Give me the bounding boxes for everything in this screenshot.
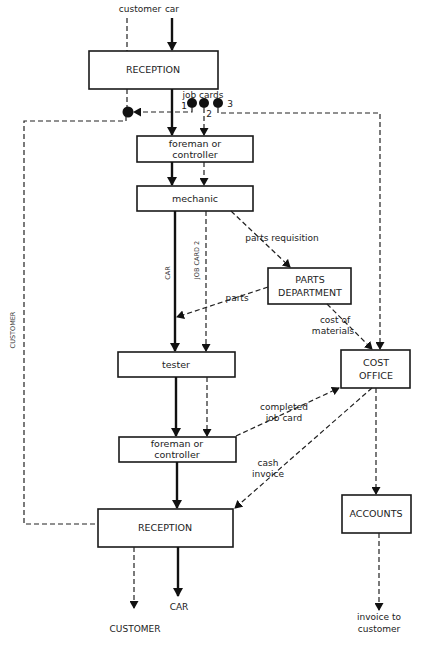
node-reception-top: RECEPTION <box>89 51 218 89</box>
node-foreman-1: foreman or controller <box>137 136 253 162</box>
car-vertical-label: CAR <box>164 266 172 280</box>
output-invoice-label-line2: customer <box>358 624 401 634</box>
output-customer-label: CUSTOMER <box>110 624 161 634</box>
output-invoice-label-line1: invoice to <box>357 612 401 622</box>
completed-job-card-label-line1: completed <box>260 402 308 412</box>
accounts-label: ACCOUNTS <box>350 508 403 519</box>
foreman-1-label-line1: foreman or <box>169 138 222 149</box>
node-cost-office: COST OFFICE <box>341 350 410 388</box>
tester-label: tester <box>162 359 190 370</box>
parts-department-label-line2: DEPARTMENT <box>278 287 342 298</box>
foreman-2-label-line2: controller <box>154 449 199 460</box>
parts-arrow <box>177 287 268 317</box>
job-card-3-dot <box>213 98 223 108</box>
customer-join-dot <box>123 107 134 118</box>
node-accounts: ACCOUNTS <box>342 495 411 533</box>
job-cards-group: job cards 1 3 2 <box>181 90 233 119</box>
reception-bottom-label: RECEPTION <box>138 522 192 533</box>
node-parts-department: PARTS DEPARTMENT <box>268 268 351 304</box>
job-card-2-dot <box>199 98 209 108</box>
job-card-1-label: 1 <box>181 101 187 111</box>
job-card-2-vertical-label: JOB CARD 2 <box>193 241 201 280</box>
job-card-3-label: 3 <box>227 99 233 109</box>
output-car-label: CAR <box>170 602 189 612</box>
input-customer-label: customer <box>119 4 162 14</box>
node-reception-bottom: RECEPTION <box>98 509 233 547</box>
node-tester: tester <box>118 352 235 377</box>
cash-invoice-label-line1: cash <box>258 458 279 468</box>
mechanic-label: mechanic <box>172 193 218 204</box>
cost-of-materials-label-line1: cost of <box>320 315 351 325</box>
input-car-label: car <box>165 4 179 14</box>
cost-office-box <box>341 350 410 388</box>
parts-label: parts <box>225 293 248 303</box>
parts-department-label-line1: PARTS <box>295 274 324 285</box>
node-foreman-2: foreman or controller <box>119 437 236 462</box>
completed-job-card-label-line2: job card <box>265 413 302 423</box>
customer-vertical-label: CUSTOMER <box>9 311 17 348</box>
completed-job-card-arrow <box>236 388 339 436</box>
input-car: car <box>165 4 179 50</box>
job-card-1-dot <box>187 98 197 108</box>
node-mechanic: mechanic <box>137 186 253 211</box>
parts-requisition-label: parts requisition <box>245 233 318 243</box>
cost-office-label-line1: COST <box>363 357 389 368</box>
cost-office-label-line2: OFFICE <box>359 370 393 381</box>
foreman-2-label-line1: foreman or <box>151 438 204 449</box>
job-card-2-label: 2 <box>206 109 212 119</box>
cost-of-materials-label-line2: materials <box>312 326 355 336</box>
customer-loop-line <box>24 116 126 524</box>
input-customer: customer <box>119 4 162 51</box>
foreman-1-label-line2: controller <box>172 149 217 160</box>
flowchart-canvas: customer car RECEPTION job cards 1 3 2 C… <box>0 0 431 648</box>
cash-invoice-label-line2: invoice <box>252 469 284 479</box>
reception-top-label: RECEPTION <box>126 64 180 75</box>
